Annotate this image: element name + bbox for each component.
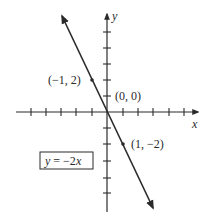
equation-label: y = −2x <box>44 154 82 168</box>
equation-middle: = −2 <box>50 154 76 168</box>
point-label-1-minus2: (1, −2) <box>131 137 164 151</box>
y-axis-label: y <box>111 9 118 23</box>
point-label-minus1-2: (−1, 2) <box>48 73 81 87</box>
point-1-minus2 <box>121 142 125 146</box>
equation-x: x <box>75 154 82 168</box>
graph-of-y-equals-minus-2x: y x (−1, 2) (0, 0) (1, −2) y = −2x <box>0 0 209 222</box>
point-minus1-2 <box>90 78 94 82</box>
x-axis-label: x <box>191 117 198 131</box>
point-label-origin: (0, 0) <box>115 89 141 103</box>
